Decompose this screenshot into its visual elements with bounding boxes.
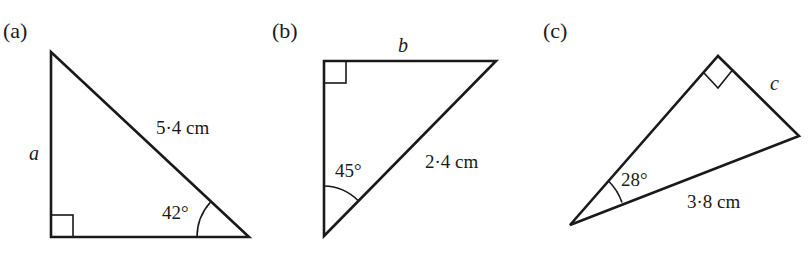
right-angle-marker-b <box>324 61 346 83</box>
angle-arc-a <box>197 202 210 237</box>
right-angle-marker-c <box>704 70 733 88</box>
given-side-label-c: 3·8 cm <box>687 191 741 212</box>
given-angle-label-b: 45° <box>335 160 362 181</box>
panel-label-a: (a) <box>3 18 27 43</box>
given-side-label-b: 2·4 cm <box>425 151 479 172</box>
triangle-a: (a) a 5·4 cm 42° <box>3 18 249 237</box>
triangle-c-shape <box>570 56 799 225</box>
unknown-side-label-b: b <box>398 34 408 56</box>
given-side-label-a: 5·4 cm <box>156 117 210 138</box>
triangle-a-shape <box>51 52 249 237</box>
triangle-b-shape <box>324 61 496 236</box>
unknown-side-label-c: c <box>770 72 779 94</box>
angle-arc-b <box>324 186 358 201</box>
triangle-b: (b) b 2·4 cm 45° <box>272 18 496 236</box>
given-angle-label-a: 42° <box>162 202 189 223</box>
right-angle-marker-a <box>51 215 73 237</box>
given-angle-label-c: 28° <box>621 169 648 190</box>
unknown-side-label-a: a <box>29 142 39 164</box>
triangles-diagram: (a) a 5·4 cm 42° (b) b 2·4 cm 45° (c) c … <box>0 0 809 253</box>
panel-label-c: (c) <box>543 18 567 43</box>
panel-label-b: (b) <box>272 18 298 43</box>
angle-arc-c <box>609 181 623 203</box>
triangle-c: (c) c 3·8 cm 28° <box>543 18 799 225</box>
